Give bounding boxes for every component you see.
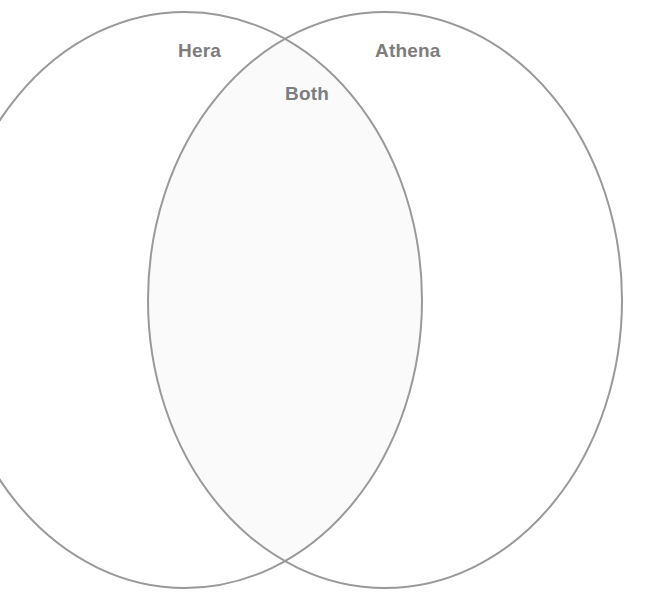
- set-label-left: Hera: [178, 41, 221, 60]
- venn-diagram: Hera Athena Both: [0, 0, 649, 612]
- overlap-region: [148, 12, 622, 588]
- set-label-overlap: Both: [285, 84, 329, 103]
- overlap-fill: [148, 12, 622, 588]
- set-label-right: Athena: [375, 41, 441, 60]
